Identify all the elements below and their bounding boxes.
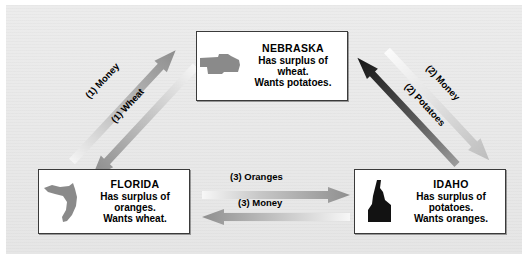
state-name-florida: FLORIDA xyxy=(85,179,185,191)
idaho-map-icon xyxy=(355,178,401,226)
state-wants-idaho: Wants oranges. xyxy=(401,213,501,224)
diagram-panel: (1) Money (1) Wheat (2) Money (2) Potato… xyxy=(6,5,522,254)
state-text-nebraska: NEBRASKA Has surplus of wheat. Wants pot… xyxy=(243,43,347,88)
state-surplus-item-florida: oranges. xyxy=(85,202,185,213)
flow-label-money1: (1) Money xyxy=(83,61,121,101)
state-surplus-line-idaho: Has surplus of xyxy=(401,191,501,202)
state-surplus-item-idaho: potatoes. xyxy=(401,202,501,213)
state-box-idaho[interactable]: IDAHO Has surplus of potatoes. Wants ora… xyxy=(354,169,506,234)
state-surplus-line-florida: Has surplus of xyxy=(85,191,185,202)
state-name-idaho: IDAHO xyxy=(401,179,501,191)
state-wants-nebraska: Wants potatoes. xyxy=(243,77,343,88)
state-text-idaho: IDAHO Has surplus of potatoes. Wants ora… xyxy=(401,179,505,224)
flow-arrow-money3 xyxy=(202,209,350,225)
state-box-nebraska[interactable]: NEBRASKA Has surplus of wheat. Wants pot… xyxy=(196,31,348,101)
florida-map-icon xyxy=(39,180,85,224)
state-box-florida[interactable]: FLORIDA Has surplus of oranges. Wants wh… xyxy=(38,169,190,234)
state-surplus-item-nebraska: wheat. xyxy=(243,66,343,77)
diagram-canvas: (1) Money (1) Wheat (2) Money (2) Potato… xyxy=(0,0,528,260)
state-text-florida: FLORIDA Has surplus of oranges. Wants wh… xyxy=(85,179,189,224)
state-surplus-line-nebraska: Has surplus of xyxy=(243,55,343,66)
flow-label-oranges3: (3) Oranges xyxy=(230,171,283,182)
state-wants-florida: Wants wheat. xyxy=(85,213,185,224)
flow-label-money3: (3) Money xyxy=(238,197,282,208)
state-name-nebraska: NEBRASKA xyxy=(243,43,343,55)
nebraska-map-icon xyxy=(197,51,243,81)
